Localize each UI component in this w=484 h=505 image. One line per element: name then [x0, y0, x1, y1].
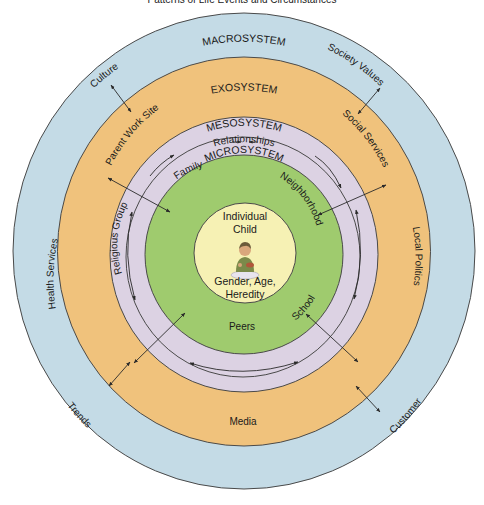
child-label: Child	[233, 223, 257, 235]
gender-age-label: Gender, Age,	[214, 275, 275, 287]
ecological-systems-diagram: MACROSYSTEM EXOSYSTEM MESOSYSTEM Relatio…	[0, 0, 484, 505]
peers-label: Peers	[229, 321, 255, 332]
individual-label: Individual	[223, 210, 267, 222]
media-label: Media	[229, 416, 257, 427]
heredity-label: Heredity	[225, 288, 265, 300]
